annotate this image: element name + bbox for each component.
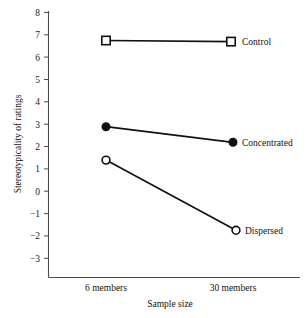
y-tick-label: 1 (35, 164, 40, 174)
series-label-concentrated: Concentrated (242, 138, 293, 148)
series-concentrated: Concentrated (102, 123, 293, 148)
line-chart: 8 7 6 5 4 3 2 1 0 −1 −2 −3 Stereotypical… (0, 0, 307, 318)
y-tick-label: 6 (35, 53, 40, 63)
series-dispersed-line (106, 160, 236, 230)
y-tick-label: −3 (30, 254, 40, 264)
series-label-dispersed: Dispersed (245, 226, 283, 236)
data-point-marker (227, 37, 235, 45)
series-concentrated-line (106, 127, 233, 143)
y-axis-tick-labels: 8 7 6 5 4 3 2 1 0 −1 −2 −3 (30, 8, 40, 264)
y-tick-label: 5 (35, 75, 40, 85)
y-tick-label: −2 (30, 231, 40, 241)
x-tick-label-6-members: 6 members (85, 283, 127, 293)
y-tick-label: 3 (35, 120, 40, 130)
y-tick-label: 7 (35, 30, 40, 40)
data-point-marker (229, 139, 237, 147)
chart-canvas: 8 7 6 5 4 3 2 1 0 −1 −2 −3 Stereotypical… (0, 0, 307, 318)
series-control: Control (102, 36, 272, 47)
y-tick-label: 2 (35, 142, 40, 152)
y-tick-label: 4 (35, 97, 40, 107)
y-tick-label: 0 (35, 187, 40, 197)
data-point-marker (102, 123, 110, 131)
data-point-marker (102, 156, 110, 164)
y-axis-ticks (44, 12, 49, 258)
y-tick-label: −1 (30, 209, 40, 219)
x-axis-title: Sample size (147, 299, 193, 309)
data-point-marker (232, 226, 240, 234)
series-control-line (106, 41, 231, 42)
data-point-marker (102, 36, 110, 44)
x-tick-label-30-members: 30 members (210, 283, 257, 293)
y-axis-title: Stereotypicality of ratings (13, 94, 23, 193)
series-dispersed: Dispersed (102, 156, 283, 236)
series-label-control: Control (242, 37, 271, 47)
y-tick-label: 8 (35, 8, 40, 18)
